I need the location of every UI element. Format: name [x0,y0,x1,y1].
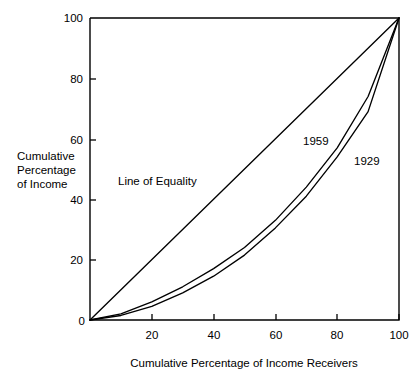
chart-canvas: 100 80 60 40 20 0 20 40 60 80 100 Line o… [0,0,418,382]
xtick-label-80: 80 [331,329,344,341]
ytick-label-20: 20 [70,254,83,266]
ytick-label-100: 100 [64,12,83,24]
annotation-line-of-equality: Line of Equality [118,175,197,187]
ytick-label-80: 80 [70,73,83,85]
series-line-line-of-equality [90,18,399,320]
y-axis-title-line-1: Cumulative [17,150,75,162]
xtick-label-20: 20 [146,329,159,341]
xtick-label-60: 60 [270,329,283,341]
ytick-label-40: 40 [70,194,83,206]
annotation-1929: 1929 [354,155,380,167]
ytick-label-0: 0 [79,315,85,327]
series-group [90,18,399,320]
annotation-1959: 1959 [303,135,329,147]
y-axis-title-line-2: Percentage [17,164,76,176]
xtick-label-100: 100 [389,329,408,341]
ytick-label-60: 60 [70,134,83,146]
xtick-label-40: 40 [208,329,221,341]
y-axis-title-line-3: of Income [17,178,68,190]
x-axis-title: Cumulative Percentage of Income Receiver… [130,357,358,369]
lorenz-curve-chart: 100 80 60 40 20 0 20 40 60 80 100 Line o… [0,0,418,382]
